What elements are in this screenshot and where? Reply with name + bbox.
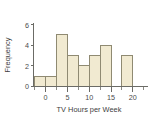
bar-bin-6	[89, 56, 100, 87]
x-tick-label-0: 0	[44, 93, 48, 102]
bar-bin-4	[67, 56, 78, 87]
bar-bin-1	[35, 76, 46, 86]
chart-canvas: Frequency 0 2 4 6	[0, 0, 154, 119]
bar-bin-7	[100, 45, 111, 86]
x-tick-label-5: 5	[65, 93, 69, 102]
bar-bin-5	[78, 66, 89, 87]
y-tick-label-6: 6	[25, 21, 29, 30]
bar-bin-3	[57, 35, 68, 87]
bar-bin-2	[46, 76, 57, 86]
x-tick-label-15: 15	[107, 93, 115, 102]
x-axis-title: TV Hours per Week	[57, 105, 122, 114]
y-axis-title: Frequency	[3, 37, 12, 72]
x-tick-label-10: 10	[85, 93, 93, 102]
histogram-chart: Frequency 0 2 4 6	[0, 0, 154, 119]
y-tick-label-0: 0	[25, 82, 29, 91]
bar-bin-9	[122, 56, 133, 87]
y-tick-label-4: 4	[25, 41, 29, 50]
y-tick-label-2: 2	[25, 62, 29, 71]
x-tick-label-20: 20	[129, 93, 137, 102]
